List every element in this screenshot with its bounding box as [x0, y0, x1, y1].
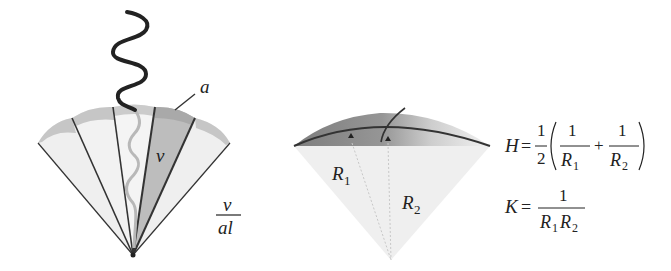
eq-h-term2-sub: 2 — [622, 159, 628, 173]
diagram-canvas: a ν ν al R 1 R 2 H = 1 2 1 R 1 + 1 — [0, 0, 671, 271]
leader-line-a — [175, 94, 195, 110]
eq-k-den-b: R — [559, 212, 571, 232]
fraction-numerator: ν — [223, 194, 232, 215]
eq-k-den-a-sub: 1 — [552, 221, 558, 235]
cone-fan-figure: a ν ν al — [38, 12, 241, 258]
eq-h-lhs: H — [504, 135, 520, 156]
eq-h-term1-sub: 1 — [573, 159, 579, 173]
sector-body — [294, 146, 490, 260]
eq-k-den-a: R — [539, 212, 551, 232]
eq-h-half-den: 2 — [537, 149, 546, 168]
curvature-sector-figure: R 1 R 2 — [294, 108, 490, 260]
eq-k-equals: = — [521, 197, 531, 217]
fan-apex — [131, 253, 136, 258]
fraction-denominator: al — [218, 217, 233, 238]
label-v: ν — [156, 145, 165, 166]
eq-h-equals: = — [521, 136, 531, 156]
eq-k-den-b-sub: 2 — [572, 221, 578, 235]
label-r2: R — [401, 192, 414, 213]
incoming-wave-icon — [113, 12, 147, 110]
mean-curvature-equation: H = 1 2 1 R 1 + 1 R 2 — [504, 121, 644, 173]
label-r1-sub: 1 — [344, 173, 351, 188]
gaussian-curvature-equation: K = 1 R 1 R 2 — [504, 186, 585, 235]
eq-h-term1-den: R — [560, 150, 572, 170]
eq-h-left-paren — [551, 122, 556, 170]
eq-h-term1-num: 1 — [568, 121, 577, 140]
eq-h-plus: + — [594, 136, 604, 155]
label-r2-sub: 2 — [414, 202, 421, 217]
eq-h-half-num: 1 — [537, 121, 546, 140]
eq-h-term2-den: R — [609, 150, 621, 170]
surface-cap — [294, 113, 490, 146]
eq-k-lhs: K — [504, 196, 519, 217]
label-a: a — [200, 76, 210, 97]
eq-h-term2-num: 1 — [618, 121, 627, 140]
eq-h-right-paren — [639, 122, 644, 170]
eq-k-num: 1 — [559, 186, 568, 205]
label-r1: R — [331, 163, 344, 184]
